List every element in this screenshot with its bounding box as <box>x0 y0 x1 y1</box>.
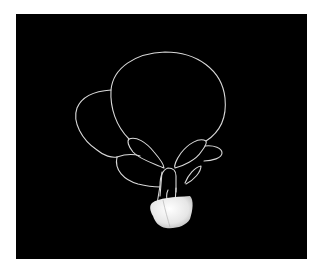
basket <box>150 196 192 228</box>
lower-right-petal <box>185 166 201 184</box>
balloon-illustration <box>0 0 319 269</box>
lower-left-curve <box>116 157 160 187</box>
left-petal <box>128 138 164 168</box>
balloon-envelope <box>111 52 225 141</box>
right-loop <box>204 146 222 161</box>
right-petal <box>175 140 207 168</box>
balloon-neck <box>160 168 176 192</box>
